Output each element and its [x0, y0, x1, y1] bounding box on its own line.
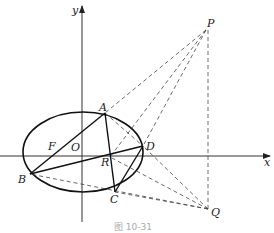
label-Q: Q	[211, 206, 220, 219]
ellipse	[23, 112, 143, 192]
label-C: C	[110, 193, 119, 206]
label-P: P	[206, 17, 215, 30]
label-x: x	[264, 156, 271, 169]
figure-caption: 图 10-31	[114, 222, 152, 232]
label-R: R	[100, 156, 109, 169]
label-O: O	[71, 141, 80, 154]
ellipse-diagram: y x O P Q A B C D R F 图 10-31	[0, 0, 274, 233]
label-B: B	[17, 173, 26, 186]
label-D: D	[145, 140, 155, 153]
label-F: F	[47, 140, 56, 153]
label-y: y	[71, 4, 79, 17]
label-A: A	[98, 101, 107, 114]
